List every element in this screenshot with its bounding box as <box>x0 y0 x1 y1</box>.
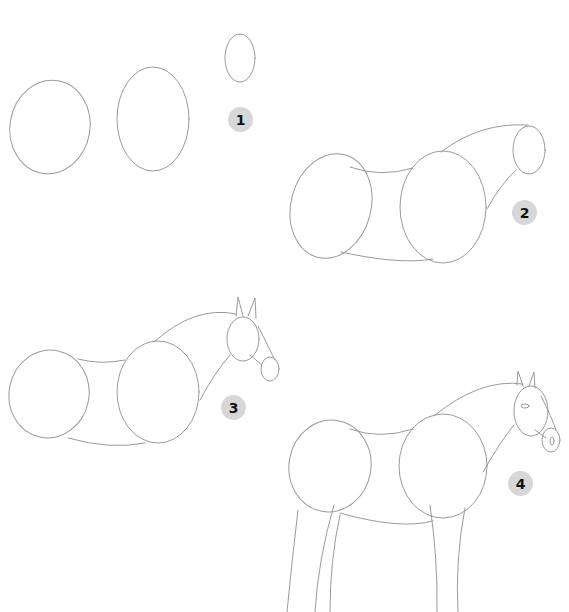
step-2-drawing <box>279 125 545 268</box>
step-2-badge: 2 <box>512 200 537 225</box>
step-3-drawing <box>1 297 279 446</box>
horse-tutorial-sketch <box>0 0 569 612</box>
step-1-badge: 1 <box>228 107 253 132</box>
step-1-drawing <box>2 34 255 180</box>
step-4-badge: 4 <box>508 471 533 496</box>
step-3-badge: 3 <box>221 395 246 420</box>
